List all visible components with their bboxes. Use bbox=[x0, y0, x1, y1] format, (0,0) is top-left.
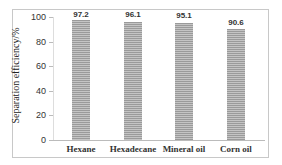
y-tick-mark bbox=[49, 17, 53, 18]
y-tick-20: 20 bbox=[26, 110, 46, 120]
y-tick-0: 0 bbox=[26, 135, 46, 145]
y-tick-60: 60 bbox=[26, 61, 46, 71]
y-tick-mark bbox=[49, 91, 53, 92]
bar-hexane bbox=[72, 20, 90, 140]
bar-hexadecane bbox=[124, 22, 142, 140]
y-tick-mark bbox=[49, 66, 53, 67]
value-label-hexane: 97.2 bbox=[61, 10, 101, 19]
y-tick-mark bbox=[49, 140, 53, 141]
bar-corn-oil bbox=[227, 29, 245, 140]
x-axis bbox=[53, 140, 265, 141]
value-label-mineral-oil: 95.1 bbox=[164, 11, 204, 20]
y-axis-label: Separation efficiency/% bbox=[10, 21, 21, 131]
y-tick-40: 40 bbox=[26, 86, 46, 96]
value-label-corn-oil: 90.6 bbox=[216, 18, 256, 27]
category-label-hexane: Hexane bbox=[51, 144, 111, 154]
y-tick-100: 100 bbox=[26, 12, 46, 22]
y-tick-mark bbox=[49, 115, 53, 116]
value-label-hexadecane: 96.1 bbox=[113, 10, 153, 19]
y-tick-80: 80 bbox=[26, 37, 46, 47]
category-label-corn-oil: Corn oil bbox=[206, 144, 266, 154]
y-axis bbox=[53, 17, 54, 141]
y-tick-mark bbox=[49, 42, 53, 43]
bar-mineral-oil bbox=[175, 23, 193, 140]
category-label-mineral-oil: Mineral oil bbox=[154, 144, 214, 154]
